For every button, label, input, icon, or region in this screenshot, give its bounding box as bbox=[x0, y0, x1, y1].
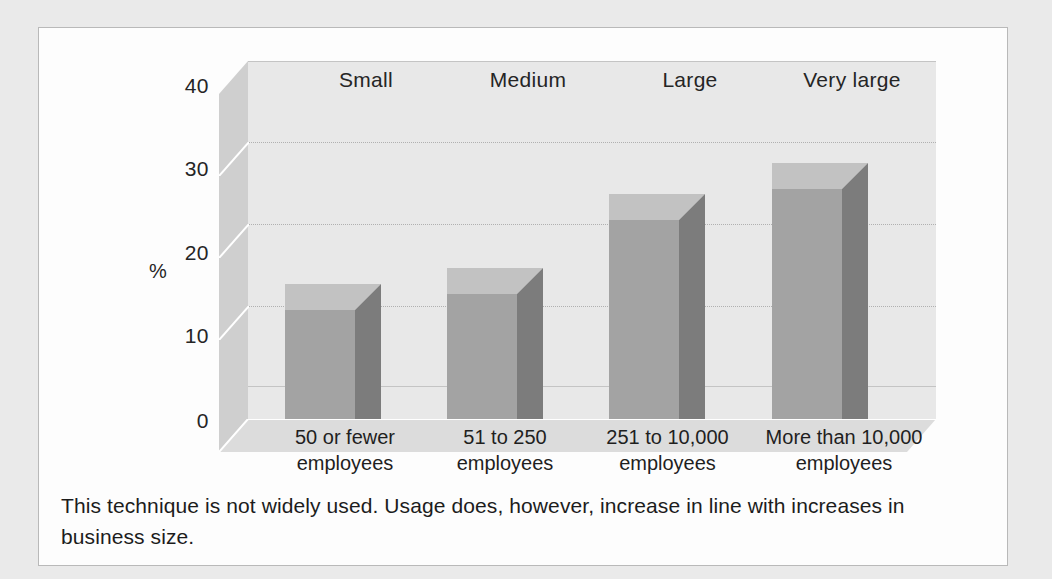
bar-top-face bbox=[772, 163, 842, 189]
category-label-1-line2: employees bbox=[255, 450, 435, 476]
bar-top-face bbox=[447, 268, 517, 294]
gridstep-20 bbox=[219, 224, 249, 258]
series-label-very-large: Very large bbox=[767, 68, 937, 92]
bar-top-face bbox=[609, 194, 679, 220]
bar-front-face bbox=[772, 189, 842, 419]
category-label-2: 51 to 250 employees bbox=[425, 424, 585, 476]
gridstep-10 bbox=[219, 306, 249, 340]
category-label-3-line1: 251 to 10,000 bbox=[575, 424, 760, 450]
bar-front-face bbox=[447, 294, 517, 419]
y-tick-10: 10 bbox=[149, 324, 209, 348]
series-label-medium: Medium bbox=[453, 68, 603, 92]
chart-figure: 40 30 20 10 0 % Small Medium Large Very … bbox=[0, 0, 1052, 579]
figure-caption: This technique is not widely used. Usage… bbox=[61, 490, 991, 552]
bar-front-face bbox=[609, 220, 679, 419]
bar-very-large bbox=[772, 163, 842, 419]
category-label-4: More than 10,000 employees bbox=[739, 424, 949, 476]
bar-side-face bbox=[842, 189, 868, 419]
category-label-2-line2: employees bbox=[425, 450, 585, 476]
bar-chart-3d: 40 30 20 10 0 % Small Medium Large Very … bbox=[39, 28, 1009, 483]
y-tick-30: 30 bbox=[149, 157, 209, 181]
category-label-2-line1: 51 to 250 bbox=[425, 424, 585, 450]
bar-large bbox=[609, 194, 679, 419]
y-tick-40: 40 bbox=[149, 74, 209, 98]
series-label-large: Large bbox=[615, 68, 765, 92]
y-axis-title: % bbox=[149, 260, 167, 283]
gridstep-30 bbox=[219, 142, 249, 176]
y-tick-0: 0 bbox=[149, 409, 209, 433]
bar-front-face bbox=[285, 310, 355, 419]
bar-side-face bbox=[517, 294, 543, 419]
category-label-4-line1: More than 10,000 bbox=[739, 424, 949, 450]
bar-small bbox=[285, 284, 355, 419]
bar-side-face bbox=[679, 220, 705, 419]
gridline-30 bbox=[248, 142, 936, 143]
bar-side-face bbox=[355, 310, 381, 419]
gridline-40 bbox=[248, 61, 936, 62]
category-label-3: 251 to 10,000 employees bbox=[575, 424, 760, 476]
category-label-1-line1: 50 or fewer bbox=[255, 424, 435, 450]
series-label-small: Small bbox=[291, 68, 441, 92]
category-label-1: 50 or fewer employees bbox=[255, 424, 435, 476]
category-label-3-line2: employees bbox=[575, 450, 760, 476]
bar-medium bbox=[447, 268, 517, 419]
bar-top-face bbox=[285, 284, 355, 310]
figure-panel: 40 30 20 10 0 % Small Medium Large Very … bbox=[38, 27, 1008, 566]
category-label-4-line2: employees bbox=[739, 450, 949, 476]
